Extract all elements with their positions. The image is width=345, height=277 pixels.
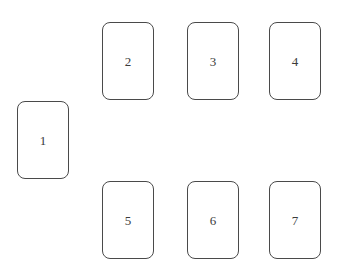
card-7-label: 7 bbox=[270, 214, 320, 227]
card-6[interactable]: 6 bbox=[187, 181, 239, 259]
diagram-canvas: 1 2 3 4 5 6 7 bbox=[0, 0, 345, 277]
card-5-label: 5 bbox=[103, 214, 153, 227]
card-2[interactable]: 2 bbox=[102, 22, 154, 100]
card-7[interactable]: 7 bbox=[269, 181, 321, 259]
card-1[interactable]: 1 bbox=[17, 101, 69, 179]
card-3-label: 3 bbox=[188, 55, 238, 68]
card-6-label: 6 bbox=[188, 214, 238, 227]
card-4[interactable]: 4 bbox=[269, 22, 321, 100]
card-3[interactable]: 3 bbox=[187, 22, 239, 100]
card-2-label: 2 bbox=[103, 55, 153, 68]
card-4-label: 4 bbox=[270, 55, 320, 68]
card-1-label: 1 bbox=[18, 134, 68, 147]
card-5[interactable]: 5 bbox=[102, 181, 154, 259]
